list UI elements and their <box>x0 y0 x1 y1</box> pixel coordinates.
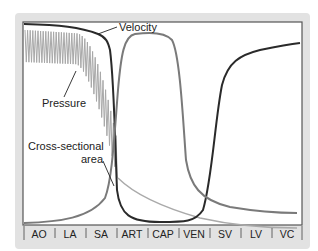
area-label-line1: Cross-sectional <box>28 140 104 152</box>
pressure-label: Pressure <box>42 97 86 109</box>
x-tick-sa: SA <box>94 228 108 240</box>
x-tick-lv: LV <box>250 228 262 240</box>
x-tick-ao: AO <box>31 228 46 240</box>
x-tick-cap: CAP <box>152 228 174 240</box>
area-label-line2: area <box>81 153 104 165</box>
x-tick-art: ART <box>122 228 143 240</box>
x-tick-ven: VEN <box>183 228 205 240</box>
chart-svg: Velocity Pressure Cross-sectional area A… <box>0 0 318 251</box>
x-tick-la: LA <box>64 228 77 240</box>
velocity-label: Velocity <box>119 21 157 33</box>
x-tick-sv: SV <box>218 228 232 240</box>
x-tick-vc: VC <box>280 228 295 240</box>
x-axis: AO LA SA ART CAP VEN SV LV VC <box>24 226 302 240</box>
